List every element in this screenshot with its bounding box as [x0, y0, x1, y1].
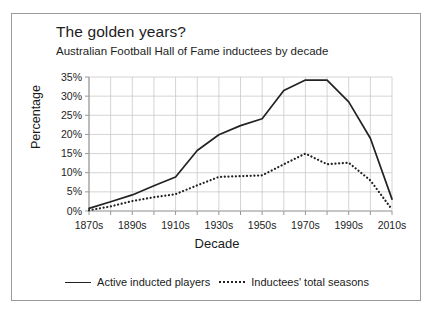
x-tick-label: 1890s [118, 219, 147, 231]
y-tick-label: 30% [61, 90, 82, 102]
x-tick-label: 1970s [291, 219, 320, 231]
y-tick-label: 25% [61, 109, 82, 121]
x-tick-label: 2010s [378, 219, 407, 231]
legend-label: Inductees' total seasons [251, 276, 369, 288]
x-tick-label: 1990s [334, 219, 363, 231]
chart-figure: The golden years? Australian Football Ha… [11, 13, 421, 301]
y-tick-label: 0% [67, 205, 82, 217]
x-tick-label: 1930s [205, 219, 234, 231]
y-tick-label: 5% [67, 185, 82, 197]
legend-item-active-inducted-players: Active inducted players [65, 276, 210, 288]
y-tick-label: 35% [61, 71, 82, 83]
legend-solid-line-icon [65, 282, 91, 283]
x-tick-label: 1950s [248, 219, 277, 231]
y-tick-label: 20% [61, 128, 82, 140]
x-tick-label: 1870s [75, 219, 104, 231]
y-tick-label: 15% [61, 147, 82, 159]
chart-legend: Active inducted players Inductees' total… [12, 276, 422, 288]
legend-dotted-line-icon [219, 281, 245, 283]
plot-area: 35%30%25%20%15%10%5%0%1870s1890s1910s193… [12, 14, 422, 302]
y-tick-label: 10% [61, 166, 82, 178]
chart-svg: 35%30%25%20%15%10%5%0%1870s1890s1910s193… [12, 14, 422, 302]
x-tick-label: 1910s [161, 219, 190, 231]
legend-item-inductees-total-seasons: Inductees' total seasons [219, 276, 369, 288]
legend-label: Active inducted players [97, 276, 210, 288]
